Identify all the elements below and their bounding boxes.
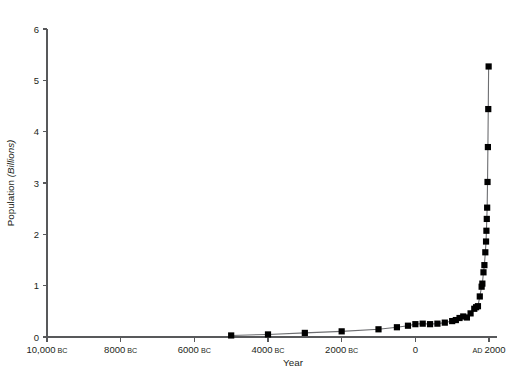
data-point-marker [483,238,489,244]
data-point-marker [302,330,308,336]
x-tick-label: 6000 BC [178,344,211,355]
chart-canvas: 0123456 10,000 BC8000 BC6000 BC4000 BC20… [0,0,525,379]
x-tick-label: 10,000 BC [26,344,67,355]
data-point-marker [484,179,490,185]
data-point-marker [394,324,400,330]
tick-marks [43,29,489,342]
axis-titles: YearPopulation (Billions) [5,140,304,368]
y-tick-label: 1 [34,280,39,291]
y-tick-label: 0 [34,332,39,343]
data-point-marker [484,216,490,222]
y-tick-label: 5 [34,75,39,86]
y-tick-label: 2 [34,229,39,240]
data-point-marker [477,293,483,299]
x-tick-labels: 10,000 BC8000 BC6000 BC4000 BC2000 BC0AD… [26,344,505,355]
population-growth-chart: 0123456 10,000 BC8000 BC6000 BC4000 BC20… [0,0,525,379]
data-point-marker [405,323,411,329]
data-point-marker [480,269,486,275]
y-tick-label: 3 [34,178,39,189]
x-tick-label: AD 2000 [472,344,505,355]
data-point-marker [375,326,381,332]
data-point-marker [339,328,345,334]
x-tick-label: 0 [413,344,418,355]
x-tick-label: 4000 BC [251,344,284,355]
data-point-marker [228,332,234,338]
axes [47,29,497,337]
data-point-marker [484,205,490,211]
y-tick-labels: 0123456 [34,24,39,343]
data-point-marker [483,228,489,234]
data-point-marker [486,63,492,69]
data-point-marker [412,321,418,327]
data-point-marker [265,331,271,337]
data-point-marker [485,106,491,112]
x-tick-label: 8000 BC [104,344,137,355]
axis-spines [47,29,497,337]
data-point-marker [442,320,448,326]
data-point-marker [427,321,433,327]
y-tick-label: 6 [34,24,39,35]
data-point-marker [481,262,487,268]
data-point-marker [485,144,491,150]
data-point-marker [479,281,485,287]
y-tick-label: 4 [34,126,39,137]
data-series [228,63,492,338]
x-axis-title: Year [283,357,304,368]
data-point-marker [434,321,440,327]
x-tick-label: 2000 BC [325,344,358,355]
y-axis-title: Population (Billions) [5,140,16,227]
data-point-marker [420,321,426,327]
data-point-marker [482,249,488,255]
series-line [231,66,488,335]
data-point-marker [475,303,481,309]
